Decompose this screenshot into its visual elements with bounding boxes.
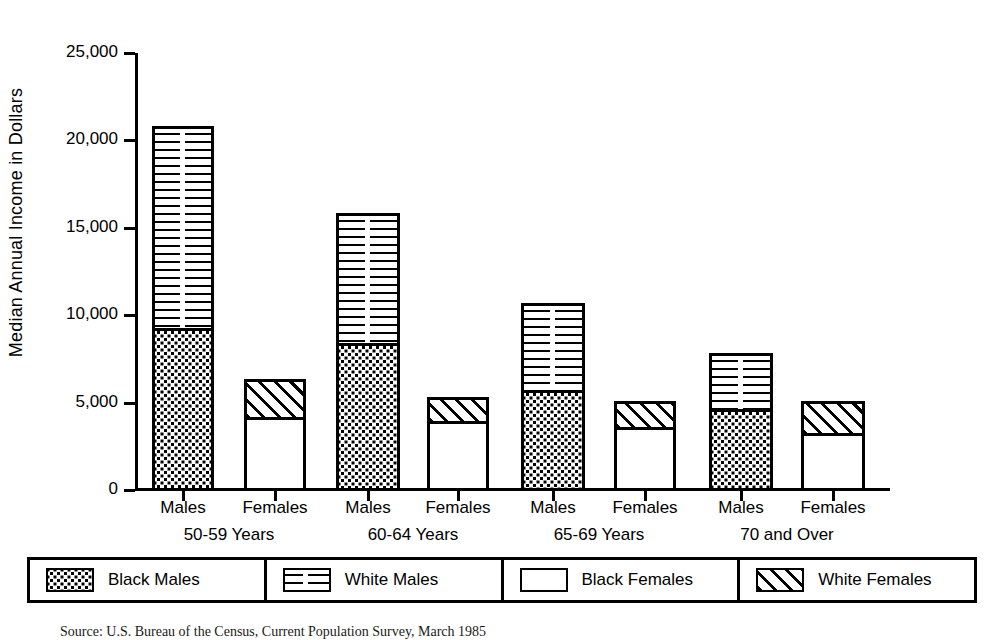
bar-segment-divider xyxy=(617,427,673,430)
bar-segment-lower xyxy=(339,344,397,488)
bar-segment-divider xyxy=(524,390,582,393)
bar-females-60-64-years xyxy=(427,397,489,491)
y-tick-label-2: 15,000 xyxy=(0,217,118,237)
bar-segment-upper xyxy=(712,356,770,410)
legend-swatch-black-males xyxy=(46,568,94,592)
bar-segment-upper xyxy=(430,400,486,422)
group-label-1: 60-64 Years xyxy=(323,525,503,545)
bar-females-65-69-years xyxy=(614,401,676,491)
legend-swatch-white-females xyxy=(756,568,804,592)
source-caption: Source: U.S. Bureau of the Census, Curre… xyxy=(60,624,486,640)
y-tick-0 xyxy=(124,52,135,55)
y-tick-label-4: 5,000 xyxy=(0,392,118,412)
bar-segment-lower xyxy=(617,428,673,488)
y-tick-label-5: 0 xyxy=(0,479,118,499)
bar-segment-divider xyxy=(247,417,303,420)
legend-swatch-black-females xyxy=(520,568,568,592)
y-tick-2 xyxy=(124,227,135,230)
group-label-2: 65-69 Years xyxy=(509,525,689,545)
bar-males-60-64-years xyxy=(336,213,400,491)
bar-segment-divider xyxy=(155,328,211,331)
legend: Black Males White Males Black Females Wh… xyxy=(27,557,977,603)
bar-segment-upper xyxy=(617,404,673,428)
bar-segment-lower xyxy=(524,391,582,488)
legend-label-1: White Males xyxy=(345,570,439,590)
legend-item-1[interactable]: White Males xyxy=(267,560,504,600)
bar-segment-lower xyxy=(155,329,211,488)
y-tick-5 xyxy=(124,489,135,492)
y-tick-label-1: 20,000 xyxy=(0,129,118,149)
bar-segment-divider xyxy=(804,433,862,436)
bar-segment-divider xyxy=(339,343,397,346)
y-tick-label-3: 10,000 xyxy=(0,304,118,324)
y-axis-line xyxy=(135,53,138,491)
y-tick-3 xyxy=(124,314,135,317)
bar-segment-lower xyxy=(430,422,486,488)
bar-males-65-69-years xyxy=(521,303,585,491)
bar-females-70-and-over xyxy=(801,401,865,491)
chart-figure: Median Annual Income in Dollars 25,00020… xyxy=(0,0,1007,640)
bar-segment-divider xyxy=(430,421,486,424)
y-tick-label-0: 25,000 xyxy=(0,42,118,62)
legend-label-0: Black Males xyxy=(108,570,200,590)
y-tick-1 xyxy=(124,139,135,142)
bar-segment-upper xyxy=(155,129,211,328)
legend-item-2[interactable]: Black Females xyxy=(504,560,741,600)
legend-label-3: White Females xyxy=(818,570,931,590)
x-axis-label-7: Females xyxy=(773,498,893,518)
bar-segment-divider xyxy=(712,409,770,412)
group-label-3: 70 and Over xyxy=(697,525,877,545)
bar-segment-lower xyxy=(712,410,770,488)
y-tick-4 xyxy=(124,402,135,405)
bar-segment-lower xyxy=(247,418,303,488)
legend-swatch-white-males xyxy=(283,568,331,592)
legend-item-0[interactable]: Black Males xyxy=(30,560,267,600)
group-label-0: 50-59 Years xyxy=(139,525,319,545)
bar-males-70-and-over xyxy=(709,353,773,491)
bar-segment-lower xyxy=(804,434,862,488)
bar-segment-upper xyxy=(524,306,582,391)
bar-females-50-59-years xyxy=(244,379,306,491)
bar-males-50-59-years xyxy=(152,126,214,491)
legend-label-2: Black Females xyxy=(582,570,693,590)
bar-segment-upper xyxy=(804,404,862,434)
bar-segment-upper xyxy=(247,382,303,418)
bar-segment-upper xyxy=(339,216,397,344)
legend-item-3[interactable]: White Females xyxy=(740,560,974,600)
